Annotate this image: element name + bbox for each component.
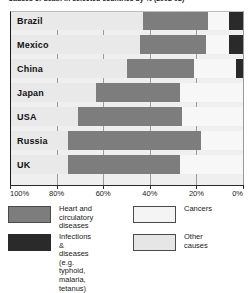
chart-legend: Heart and circulatory diseases Cancers I… [0,203,248,268]
bar-segment-heart [68,131,201,150]
gridline [243,11,244,185]
bar-segment-infect [236,59,243,78]
bar-segment-heart [127,59,195,78]
bar-segment-cancer [182,107,243,126]
bar-segment-heart [140,35,205,54]
legend-label-cancers: Cancers [184,205,212,214]
bar-segment-heart [96,83,180,102]
table-row: Brazil [10,11,243,30]
bar-segment-other [10,131,68,150]
bar-segment-infect [229,11,243,30]
bar-segment-other [10,59,127,78]
legend-swatch-cancers [133,206,176,223]
table-row: UK [10,155,243,174]
table-row: Russia [10,131,243,150]
table-row: Mexico [10,35,243,54]
x-axis-line [10,185,243,186]
legend-label-infections: Infections & diseases (e.g. typhoid, mal… [59,233,91,293]
bar-segment-heart [68,155,180,174]
legend-label-other: Other causes [184,233,208,250]
axis-tick-label: 80% [49,189,64,198]
bar-segment-cancer [194,59,236,78]
legend-label-heart: Heart and circulatory diseases [59,205,93,231]
axis-tick-label: 100% [10,189,29,198]
bar-segment-cancer [208,11,229,30]
bar-segment-heart [143,11,208,30]
table-row: China [10,59,243,78]
bar-segment-other [10,107,78,126]
bar-segment-cancer [201,131,243,150]
chart-title: Causes of death in selected countries by… [8,0,246,3]
legend-swatch-heart [8,206,51,223]
bar-segment-infect [229,35,243,54]
bar-segment-other [10,35,140,54]
bar-segment-cancer [206,35,229,54]
bar-segment-heart [78,107,183,126]
axis-tick-label: 60% [96,189,111,198]
bar-segment-other [10,155,68,174]
bar-segment-cancer [180,155,243,174]
bar-segment-other [10,83,96,102]
axis-tick-label: 40% [142,189,157,198]
table-row: USA [10,107,243,126]
bar-segment-other [10,11,143,30]
legend-swatch-other [133,234,176,251]
legend-swatch-infections [8,234,51,251]
axis-tick-label: 20% [189,189,204,198]
bar-segment-cancer [180,83,243,102]
axis-tick-label: 0% [232,189,243,198]
table-row: Japan [10,83,243,102]
